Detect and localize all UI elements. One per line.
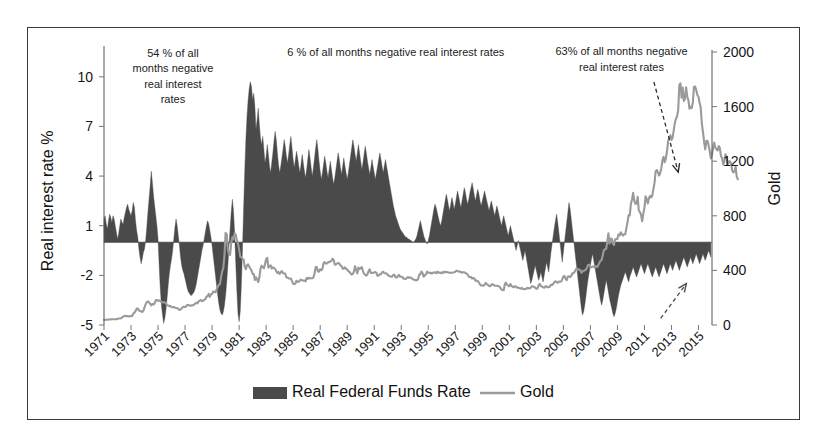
legend-swatch-real-federal-funds-rate (253, 387, 287, 399)
left-axis-tick-label: 10 (77, 69, 93, 85)
right-axis-title: Gold (766, 172, 783, 206)
annotation-middle: 6 % of all months negative real interest… (287, 46, 505, 58)
left-axis-title: Real interest rate % (39, 131, 56, 272)
left-axis-tick-label: 7 (85, 118, 93, 134)
chart-canvas: 10741-2-5Real interest rate %04008001200… (28, 28, 799, 419)
annotation-line: 54 % of all (147, 47, 198, 59)
left-axis-tick-label: -5 (81, 317, 94, 333)
right-axis-tick-label: 1600 (723, 99, 754, 115)
legend-label-real-federal-funds-rate: Real Federal Funds Rate (292, 383, 471, 400)
right-axis-tick-label: 800 (723, 208, 747, 224)
right-axis-tick-label: 2000 (723, 44, 754, 60)
legend-label-gold: Gold (520, 383, 554, 400)
annotation-line: rates (161, 93, 186, 105)
annotation-line: 6 % of all months negative real interest… (287, 46, 505, 58)
annotation-line: 63% of all months negative (555, 45, 687, 57)
left-axis-tick-label: 1 (85, 218, 93, 234)
right-axis-tick-label: 0 (723, 317, 731, 333)
annotation-line: real interest (144, 78, 201, 90)
right-axis-tick-label: 400 (723, 262, 747, 278)
left-axis-tick-label: 4 (85, 168, 93, 184)
annotation-line: months negative (133, 62, 214, 74)
left-axis-tick-label: -2 (81, 267, 94, 283)
right-axis-tick-label: 1200 (723, 153, 754, 169)
annotation-line: real interest rates (579, 61, 664, 73)
chart-figure-frame: 10741-2-5Real interest rate %04008001200… (27, 27, 800, 420)
interest-rate-gold-chart: 10741-2-5Real interest rate %04008001200… (28, 28, 798, 418)
